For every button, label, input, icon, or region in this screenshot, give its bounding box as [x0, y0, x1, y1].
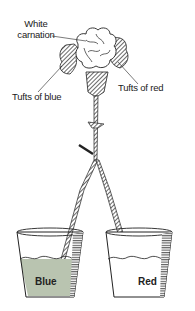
white-carnation-label-line2: carnation	[16, 29, 56, 40]
blue-tufts	[60, 44, 79, 74]
red-cup-label: Red	[138, 276, 157, 287]
tufts-blue-label: Tufts of blue	[12, 91, 61, 102]
carnation-flower	[76, 28, 116, 68]
carnation-diagram	[0, 0, 195, 311]
calyx	[86, 72, 108, 96]
blue-cup-label: Blue	[35, 276, 57, 287]
tufts-red-label: Tufts of red	[118, 82, 163, 93]
white-carnation-label-line1: White	[16, 18, 56, 29]
white-carnation-label: White carnation	[16, 18, 56, 40]
